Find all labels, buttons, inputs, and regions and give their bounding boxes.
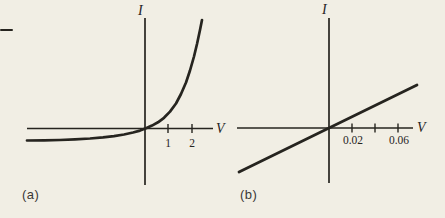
a-x-tick-label-1: 1 [165, 137, 171, 149]
figure-canvas: 1 2 I V (a) 0.02 0.06 I V (b) [0, 0, 445, 218]
a-y-axis-label: I [137, 3, 144, 18]
a-caption: (a) [22, 187, 39, 202]
scanned-figure-page: 1 2 I V (a) 0.02 0.06 I V (b) [0, 0, 445, 218]
b-y-axis-label: I [321, 2, 328, 17]
b-x-axis-label: V [417, 120, 427, 135]
a-x-tick-label-2: 2 [189, 137, 195, 149]
a-x-axis-label: V [216, 121, 226, 136]
b-x-tick-label-1: 0.02 [343, 134, 363, 146]
subplot-a: 1 2 I V (a) [22, 3, 226, 202]
b-x-tick-label-3: 0.06 [389, 134, 409, 146]
b-caption: (b) [240, 187, 257, 202]
subplot-b: 0.02 0.06 I V (b) [237, 2, 427, 202]
a-diode-curve [27, 20, 202, 141]
